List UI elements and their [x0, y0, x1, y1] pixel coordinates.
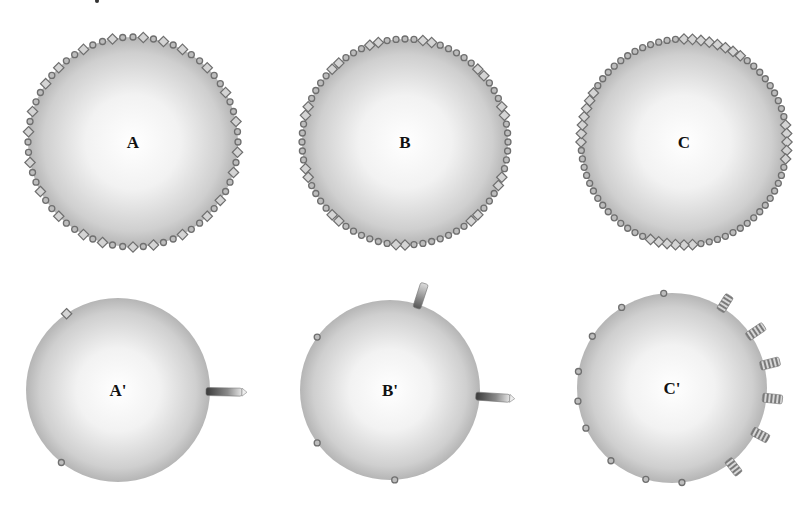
- circle-marker: [26, 149, 32, 155]
- cell-panel-B: B: [299, 35, 511, 250]
- circle-marker: [772, 188, 778, 194]
- circle-marker: [230, 109, 236, 115]
- circle-marker: [309, 95, 315, 101]
- circle-marker: [437, 42, 443, 48]
- circle-marker: [58, 459, 64, 465]
- circle-marker: [446, 46, 452, 52]
- circle-marker: [501, 166, 507, 172]
- circle-marker: [751, 63, 757, 69]
- circle-marker: [757, 69, 763, 75]
- circle-marker: [120, 243, 126, 249]
- circle-marker: [461, 223, 467, 229]
- protrusion: [745, 322, 767, 341]
- circle-marker: [618, 58, 624, 64]
- circle-marker: [299, 130, 305, 136]
- circle-marker: [33, 179, 39, 185]
- circle-marker: [197, 58, 203, 64]
- circle-marker: [313, 191, 319, 197]
- circle-marker: [706, 239, 712, 245]
- protrusion: [206, 388, 247, 397]
- circle-marker: [486, 198, 492, 204]
- circle-marker: [661, 290, 667, 296]
- circle-marker: [454, 228, 460, 234]
- circle-marker: [49, 206, 55, 212]
- circle-marker: [744, 58, 750, 64]
- circle-marker: [63, 58, 69, 64]
- panel-label: C: [678, 133, 690, 152]
- cell-diagram: ABCA'B'C': [0, 0, 809, 512]
- circle-marker: [767, 83, 773, 89]
- circle-marker: [160, 239, 166, 245]
- circle-marker: [323, 205, 329, 211]
- circle-marker: [30, 169, 36, 175]
- circle-marker: [762, 202, 768, 208]
- circle-marker: [318, 80, 324, 86]
- cell-panel-A: A: [23, 32, 242, 252]
- circle-marker: [656, 39, 662, 45]
- circle-marker: [625, 225, 631, 231]
- circle-marker: [744, 220, 750, 226]
- circle-marker: [461, 55, 467, 61]
- circle-marker: [778, 172, 784, 178]
- circle-marker: [227, 99, 233, 105]
- circle-marker: [72, 226, 78, 232]
- circle-marker: [767, 195, 773, 201]
- circle-marker: [313, 88, 319, 94]
- circle-marker: [714, 236, 720, 242]
- circle-marker: [772, 90, 778, 96]
- circle-marker: [495, 95, 501, 101]
- circle-marker: [301, 157, 307, 163]
- circle-marker: [343, 55, 349, 61]
- circle-marker: [223, 188, 229, 194]
- circle-marker: [579, 156, 585, 162]
- circle-marker: [583, 425, 589, 431]
- circle-marker: [751, 215, 757, 221]
- circle-marker: [446, 232, 452, 238]
- circle-marker: [411, 242, 417, 248]
- protrusion: [759, 357, 781, 371]
- circle-marker: [188, 52, 194, 58]
- circle-marker: [503, 121, 509, 127]
- protrusion: [476, 392, 515, 403]
- circle-marker: [605, 69, 611, 75]
- circle-marker: [314, 334, 320, 340]
- panel-label: B: [399, 133, 410, 152]
- circle-marker: [33, 99, 39, 105]
- circle-marker: [619, 304, 625, 310]
- circle-marker: [491, 191, 497, 197]
- circle-marker: [587, 180, 593, 186]
- circle-marker: [437, 236, 443, 242]
- panel-label: C': [664, 379, 681, 398]
- circle-marker: [664, 37, 670, 43]
- circle-marker: [299, 139, 305, 145]
- circle-marker: [420, 240, 426, 246]
- circle-marker: [491, 88, 497, 94]
- circle-marker: [698, 241, 704, 247]
- protrusion: [413, 282, 429, 309]
- circle-marker: [299, 148, 305, 154]
- circle-marker: [600, 202, 606, 208]
- circle-marker: [781, 114, 787, 120]
- circle-marker: [505, 148, 511, 154]
- circle-marker: [679, 479, 685, 485]
- circle-marker: [762, 76, 768, 82]
- protrusion: [762, 393, 783, 404]
- circle-marker: [481, 205, 487, 211]
- circle-marker: [140, 243, 146, 249]
- circle-marker: [393, 36, 399, 42]
- circle-marker: [486, 80, 492, 86]
- circle-marker: [43, 197, 49, 203]
- circle-marker: [323, 73, 329, 79]
- circle-marker: [757, 209, 763, 215]
- circle-marker: [343, 223, 349, 229]
- circle-marker: [608, 458, 614, 464]
- circle-marker: [49, 72, 55, 78]
- circle-marker: [309, 183, 315, 189]
- circle-marker: [648, 42, 654, 48]
- circle-marker: [100, 39, 106, 45]
- cell-panel-B-prime: B': [300, 282, 515, 483]
- circle-marker: [37, 90, 43, 96]
- circle-marker: [672, 36, 678, 42]
- panel-label: A: [127, 133, 140, 152]
- circle-marker: [234, 129, 240, 135]
